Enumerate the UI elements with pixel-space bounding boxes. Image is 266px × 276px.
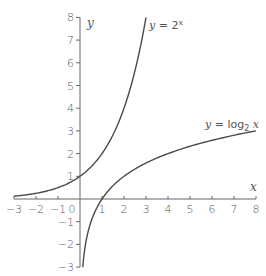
x-tick-label: −3 (6, 203, 22, 216)
y-tick-label: 2 (67, 148, 74, 161)
axes (14, 17, 256, 267)
x-tick-label: 0 (69, 203, 76, 216)
y-axis-label: y (86, 16, 94, 30)
y-tick-label: 7 (67, 34, 74, 47)
x-tick-label: −1 (50, 203, 66, 216)
x-tick-label: 8 (253, 203, 260, 216)
function-graph: −3−2−1012345678−3−2−112345678 x y y = 2x… (0, 0, 266, 276)
x-tick-label: 2 (121, 203, 128, 216)
y-tick-label: −2 (58, 238, 74, 251)
y-tick-label: 5 (67, 80, 74, 93)
x-axis-label: x (250, 180, 257, 194)
curves (14, 17, 256, 267)
y-tick-label: 3 (67, 125, 74, 138)
y-tick-label: 8 (67, 11, 74, 24)
y-tick-label: −3 (58, 261, 74, 274)
ticks: −3−2−1012345678−3−2−112345678 (6, 11, 260, 274)
y-tick-label: −1 (58, 216, 74, 229)
x-tick-label: 6 (209, 203, 216, 216)
y-tick-label: 4 (67, 102, 74, 115)
x-tick-label: −2 (28, 203, 44, 216)
x-tick-label: 3 (143, 203, 150, 216)
y-tick-label: 6 (67, 57, 74, 70)
log-curve-label: y = log2 x (204, 118, 260, 133)
x-tick-label: 5 (187, 203, 194, 216)
exp-curve-label: y = 2x (148, 18, 183, 32)
x-tick-label: 4 (165, 203, 172, 216)
x-tick-label: 1 (99, 203, 106, 216)
x-tick-label: 7 (231, 203, 238, 216)
